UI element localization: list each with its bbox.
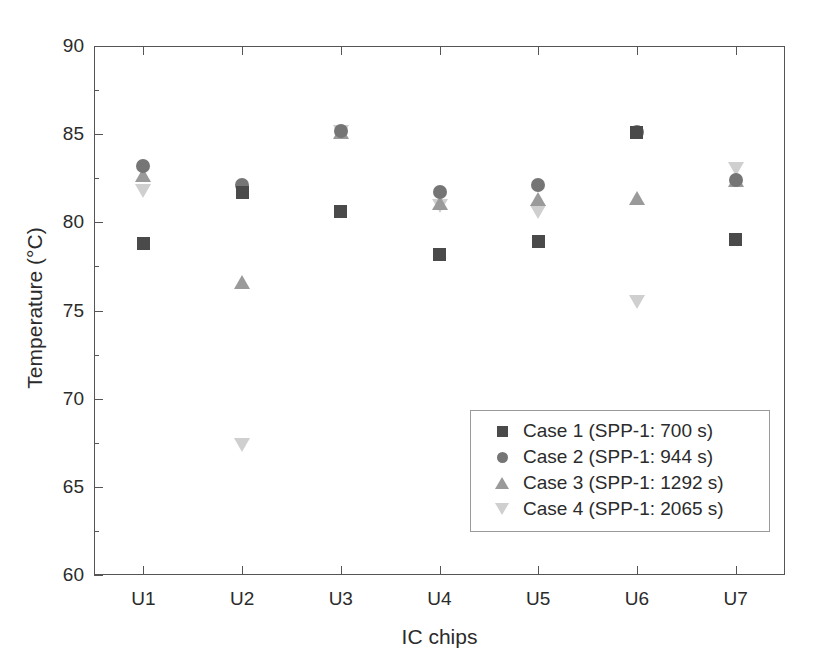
- y-tick-major: [94, 311, 103, 312]
- data-point: [234, 438, 250, 452]
- chart-legend: Case 1 (SPP-1: 700 s)Case 2 (SPP-1: 944 …: [470, 410, 770, 532]
- y-axis-title: Temperature (°C): [23, 98, 47, 518]
- data-point: [234, 275, 250, 289]
- legend-item[interactable]: Case 1 (SPP-1: 700 s): [481, 418, 759, 444]
- x-tick-label-u6: U6: [607, 589, 667, 608]
- y-tick-major: [94, 134, 103, 135]
- legend-marker-triangle-down-icon: [481, 498, 523, 520]
- legend-marker-circle-icon: [481, 446, 523, 468]
- x-tick-label-u5: U5: [508, 589, 568, 608]
- x-tick-label-u3: U3: [311, 589, 371, 608]
- data-point: [334, 124, 348, 138]
- data-point: [630, 126, 643, 139]
- data-point: [433, 185, 447, 199]
- legend-label: Case 4 (SPP-1: 2065 s): [523, 498, 724, 520]
- data-point: [530, 205, 546, 219]
- legend-label: Case 2 (SPP-1: 944 s): [523, 446, 713, 468]
- y-tick-major: [94, 222, 103, 223]
- x-tick-label-u1: U1: [113, 589, 173, 608]
- legend-label: Case 3 (SPP-1: 1292 s): [523, 472, 724, 494]
- x-tick-bottom: [440, 566, 441, 575]
- legend-item[interactable]: Case 3 (SPP-1: 1292 s): [481, 470, 759, 496]
- y-tick-major: [94, 46, 103, 47]
- data-point: [532, 235, 545, 248]
- data-point: [135, 184, 151, 198]
- x-tick-top: [736, 46, 737, 55]
- x-tick-label-u2: U2: [212, 589, 272, 608]
- scatter-chart-figure: 60657075808590 U1U2U3U4U5U6U7 Temperatur…: [0, 0, 821, 671]
- x-tick-label-u4: U4: [410, 589, 470, 608]
- data-point: [629, 191, 645, 205]
- y-tick-major: [94, 399, 103, 400]
- x-tick-top: [538, 46, 539, 55]
- x-tick-top: [637, 46, 638, 55]
- x-tick-bottom: [538, 566, 539, 575]
- data-point: [137, 237, 150, 250]
- legend-marker-triangle-up-icon: [481, 472, 523, 494]
- legend-label: Case 1 (SPP-1: 700 s): [523, 420, 713, 442]
- x-tick-bottom: [637, 566, 638, 575]
- y-tick-label: 90: [28, 36, 84, 55]
- y-tick-label: 60: [28, 565, 84, 584]
- data-point: [729, 173, 743, 187]
- y-tick-minor: [94, 90, 99, 91]
- x-tick-label-u7: U7: [706, 589, 766, 608]
- legend-marker-square-icon: [481, 420, 523, 442]
- data-point: [236, 186, 249, 199]
- x-tick-top: [143, 46, 144, 55]
- y-tick-minor: [94, 266, 99, 267]
- x-tick-bottom: [143, 566, 144, 575]
- y-tick-minor: [94, 443, 99, 444]
- x-tick-bottom: [736, 566, 737, 575]
- x-tick-bottom: [341, 566, 342, 575]
- x-axis-title: IC chips: [94, 625, 785, 649]
- y-tick-major: [94, 575, 103, 576]
- legend-item[interactable]: Case 4 (SPP-1: 2065 s): [481, 496, 759, 522]
- data-point: [334, 205, 347, 218]
- x-tick-top: [242, 46, 243, 55]
- legend-item[interactable]: Case 2 (SPP-1: 944 s): [481, 444, 759, 470]
- y-tick-major: [94, 487, 103, 488]
- y-tick-minor: [94, 178, 99, 179]
- data-point: [729, 233, 742, 246]
- x-tick-top: [440, 46, 441, 55]
- y-tick-minor: [94, 355, 99, 356]
- y-tick-minor: [94, 531, 99, 532]
- data-point: [530, 192, 546, 206]
- x-tick-bottom: [242, 566, 243, 575]
- data-point: [629, 295, 645, 309]
- x-tick-top: [341, 46, 342, 55]
- data-point: [433, 248, 446, 261]
